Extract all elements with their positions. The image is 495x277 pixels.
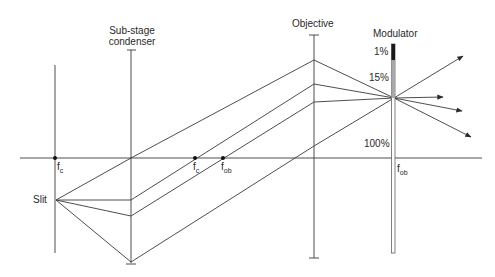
focal-point-fc-right xyxy=(193,156,197,160)
optical-diagram xyxy=(0,0,495,277)
ray-out-arrow-3 xyxy=(394,98,462,111)
objective-label: Objective xyxy=(292,18,334,29)
ray-slit-to-condenser-3 xyxy=(56,200,131,216)
focal-point-fob-right xyxy=(221,156,225,160)
condenser-label-line1: Sub-stage xyxy=(102,25,162,36)
fc-left-label: fc xyxy=(57,161,63,173)
modulator-label: Modulator xyxy=(373,28,417,39)
ray-objective-to-modulator-2 xyxy=(314,84,394,98)
slit-label: Slit xyxy=(33,194,47,205)
ray-out-arrow-2 xyxy=(394,97,443,98)
ray-slit-to-condenser-1 xyxy=(56,158,131,200)
condenser-label: Sub-stage condenser xyxy=(102,25,162,47)
ray-out-arrow-4 xyxy=(394,98,471,137)
condenser-label-line2: condenser xyxy=(102,36,162,47)
ray-condenser-to-objective-1 xyxy=(131,60,314,158)
focal-point-fc-left xyxy=(53,156,57,160)
fob-modulator-label: fob xyxy=(397,163,408,175)
modulator-100pct-label: 100% xyxy=(364,138,390,149)
modulator-15pct-label: 15% xyxy=(369,72,389,83)
ray-out-arrow-1 xyxy=(394,56,463,98)
fc-right-label: fc xyxy=(193,161,199,173)
modulator-1pct-label: 1% xyxy=(374,46,388,57)
ray-condenser-to-objective-2 xyxy=(131,84,314,200)
fob-right-label: fob xyxy=(221,161,232,173)
ray-slit-to-condenser-4 xyxy=(56,200,131,262)
ray-objective-to-modulator-3 xyxy=(314,98,394,102)
modulator-bar xyxy=(392,44,396,253)
